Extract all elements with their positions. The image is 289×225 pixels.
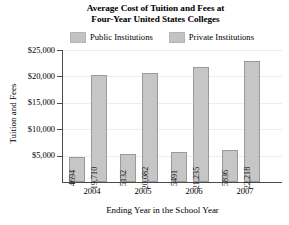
bar-public-2007[interactable]: 5836 [222,150,238,182]
bar-public-2006[interactable]: 5491 [171,152,187,182]
bar-private-2004[interactable]: 19,710 [91,75,107,182]
y-axis-title: Tuition and Fees [8,49,19,179]
x-tick-label-2005: 2005 [121,186,165,196]
bar-value-public-2006: 5491 [170,170,179,186]
legend-swatch-private-icon [169,32,185,43]
legend-label-private: Private Institutions [189,32,254,42]
plot-area: $25,000 $20,000 $15,000 $10,000 $5,000 4… [0,46,289,186]
bar-private-2006[interactable]: 21,235 [193,67,209,182]
bar-chart: Average Cost of Tuition and Fees at Four… [0,0,289,225]
legend-swatch-public-icon [70,32,86,43]
bar-private-2005[interactable]: 20,082 [142,73,158,182]
chart-title: Average Cost of Tuition and Fees at Four… [28,3,283,25]
chart-legend: Public Institutions Private Institutions [42,30,282,44]
bar-private-2007[interactable]: 22,218 [244,61,260,182]
x-axis-title: Ending Year in the School Year [40,205,285,216]
chart-title-line-1: Average Cost of Tuition and Fees at [28,3,283,14]
legend-label-public: Public Institutions [90,32,153,42]
x-tick-label-2006: 2006 [172,186,216,196]
bar-value-public-2005: 5132 [119,170,128,186]
bars-layer: 4694 19,710 5132 20,082 5491 2 [63,46,282,183]
chart-title-line-2: Four-Year United States Colleges [28,14,283,25]
bar-public-2004[interactable]: 4694 [69,157,85,183]
x-tick-label-2004: 2004 [70,186,114,196]
x-tick-label-2007: 2007 [223,186,267,196]
bar-value-public-2007: 5836 [221,170,230,186]
legend-item-private: Private Institutions [169,32,254,43]
bar-public-2005[interactable]: 5132 [120,154,136,182]
bar-value-public-2004: 4694 [68,170,77,186]
legend-item-public: Public Institutions [70,32,153,43]
